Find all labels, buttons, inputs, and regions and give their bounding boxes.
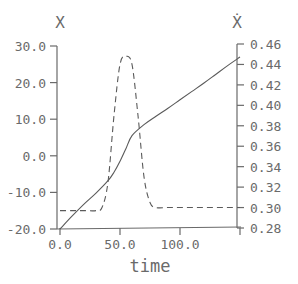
y-left-tick-label: -10.0 xyxy=(7,185,46,200)
y-right-tick-label: 0.28 xyxy=(250,221,281,236)
y-right-tick-label: 0.44 xyxy=(250,57,281,72)
series xyxy=(60,56,240,229)
x-tick-label: 100.0 xyxy=(160,237,199,252)
y-left-tick-label: 30.0 xyxy=(15,39,46,54)
y-left-tick-label: -20.0 xyxy=(7,222,46,237)
x-dot-dashed-line xyxy=(60,56,240,211)
x-axis xyxy=(57,227,241,229)
axes: 30.020.010.00.0-10.0-20.00.460.440.420.4… xyxy=(7,37,282,252)
y-left-tick-label: 20.0 xyxy=(15,76,46,91)
x-tick-label: 50.0 xyxy=(104,237,135,252)
x-axis-label: time xyxy=(130,256,171,276)
y-left-tick-label: 0.0 xyxy=(23,149,46,164)
y-left-tick-label: 10.0 xyxy=(15,112,46,127)
y-right-tick-label: 0.46 xyxy=(250,37,281,52)
y-right-tick-label: 0.38 xyxy=(250,119,281,134)
y-right-tick-label: 0.36 xyxy=(250,139,281,154)
y-right-tick-label: 0.32 xyxy=(250,180,281,195)
y-right-tick-label: 0.30 xyxy=(250,201,281,216)
y-right-tick-label: 0.34 xyxy=(250,160,281,175)
x-tick-label: 0.0 xyxy=(48,237,71,252)
y-right-tick-label: 0.40 xyxy=(250,98,281,113)
y-right-tick-label: 0.42 xyxy=(250,78,281,93)
y-left-axis-label: X xyxy=(55,13,65,32)
chart: 30.020.010.00.0-10.0-20.00.460.440.420.4… xyxy=(0,0,298,284)
y-right-axis-label: Ẋ xyxy=(232,13,242,32)
